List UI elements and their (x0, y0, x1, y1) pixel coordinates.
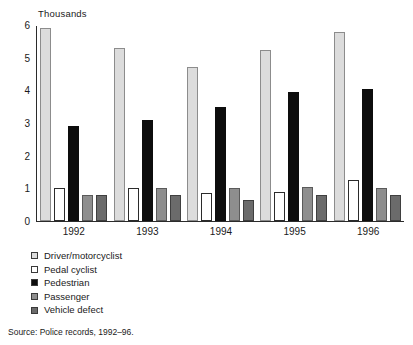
legend-label: Pedal cyclist (44, 265, 97, 275)
bar (362, 89, 373, 221)
legend-label: Pedestrian (44, 278, 89, 288)
source-note: Source: Police records, 1992–96. (8, 327, 134, 337)
bar (302, 187, 313, 221)
x-tick-label: 1993 (111, 226, 185, 237)
bar (114, 48, 125, 221)
legend-swatch-icon (31, 252, 38, 259)
bar (316, 195, 327, 221)
plot-area: 0123456 (36, 26, 404, 222)
bar (82, 195, 93, 221)
bar (187, 67, 198, 221)
legend-label: Driver/motorcyclist (44, 251, 122, 261)
legend-swatch-icon (31, 279, 38, 286)
bar-group (331, 26, 404, 221)
bar (215, 107, 226, 221)
legend-label: Vehicle defect (44, 305, 103, 315)
bar-chart: Thousands 0123456 19921993199419951996 D… (0, 0, 413, 345)
bar (170, 195, 181, 221)
bar (142, 120, 153, 221)
bar (390, 195, 401, 221)
bar (156, 188, 167, 221)
legend-item: Driver/motorcyclist (31, 249, 281, 263)
x-axis-line (36, 221, 404, 222)
legend-swatch-icon (31, 293, 38, 300)
y-tick-label: 1 (24, 184, 30, 194)
bar (128, 188, 139, 221)
y-tick-label: 3 (24, 119, 30, 129)
bar-group (37, 26, 110, 221)
legend-item: Vehicle defect (31, 303, 281, 317)
bar-group (184, 26, 257, 221)
bar (274, 192, 285, 221)
bar (376, 188, 387, 221)
y-tick-label: 5 (24, 54, 30, 64)
bar (68, 126, 79, 221)
legend-swatch-icon (31, 266, 38, 273)
bar (229, 188, 240, 221)
y-tick-label: 2 (24, 152, 30, 162)
bar (348, 180, 359, 221)
x-tick-label: 1992 (37, 226, 111, 237)
chart-legend: Driver/motorcyclistPedal cyclistPedestri… (31, 249, 281, 317)
bar (201, 193, 212, 221)
legend-item: Pedal cyclist (31, 263, 281, 277)
x-tick-label: 1995 (258, 226, 332, 237)
bar-group (257, 26, 330, 221)
bar (96, 195, 107, 221)
legend-item: Pedestrian (31, 276, 281, 290)
y-axis-unit-label: Thousands (38, 8, 87, 19)
legend-swatch-icon (31, 307, 38, 314)
bar (334, 32, 345, 221)
x-tick-label: 1994 (184, 226, 258, 237)
bar (40, 28, 51, 221)
y-tick-label: 4 (24, 86, 30, 96)
legend-item: Passenger (31, 290, 281, 304)
y-tick-label: 6 (24, 21, 30, 31)
bar-group (110, 26, 183, 221)
bar (54, 188, 65, 221)
bar (260, 50, 271, 222)
bar (243, 200, 254, 221)
x-axis-labels: 19921993199419951996 (37, 226, 405, 237)
y-tick-label: 0 (24, 217, 30, 227)
bar (288, 92, 299, 221)
legend-label: Passenger (44, 292, 89, 302)
bar-groups (37, 26, 404, 221)
x-tick-label: 1996 (331, 226, 405, 237)
